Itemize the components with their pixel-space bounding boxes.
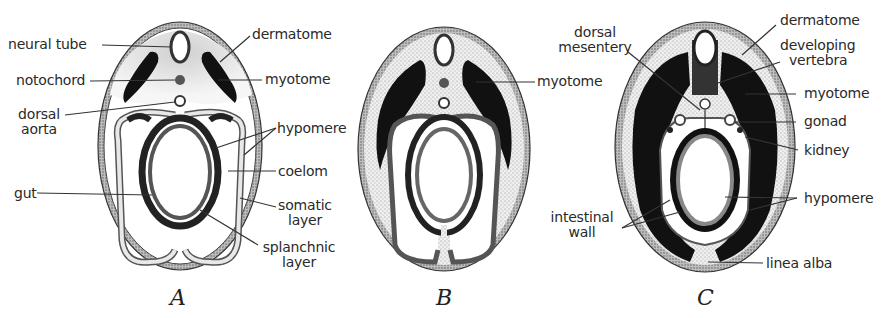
label-coelom: coelom: [278, 164, 328, 179]
label-intestinal-wall: intestinal wall: [543, 210, 621, 240]
label-linea-alba: linea alba: [766, 256, 832, 271]
label-myotome-a: myotome: [265, 72, 330, 87]
neural-tube: [694, 31, 716, 65]
label-dorsal-mesentery: dorsal mesentery: [555, 25, 635, 55]
label-neural-tube: neural tube: [8, 37, 87, 52]
label-myotome-c: myotome: [804, 86, 869, 101]
label-dorsal-mesentery-line1: dorsal: [555, 25, 635, 40]
label-myotome-b: myotome: [537, 74, 602, 89]
notochord: [175, 75, 185, 85]
label-gonad: gonad: [804, 114, 847, 129]
panel-c-diagram: [615, 22, 795, 272]
dorsal-aorta: [439, 98, 449, 108]
label-dorsal-aorta-line2: aorta: [14, 122, 64, 137]
label-developing-vertebra-line1: developing: [780, 38, 860, 53]
gut: [417, 129, 471, 221]
label-dermatome-c: dermatome: [780, 13, 860, 28]
gonad: [675, 115, 685, 125]
label-gut: gut: [14, 186, 37, 201]
notochord: [439, 78, 449, 88]
dorsal-aorta: [700, 99, 710, 109]
label-somatic-line2: layer: [274, 213, 336, 228]
gonad: [725, 115, 735, 125]
embryo-cross-section-figure: [0, 0, 889, 318]
kidney: [667, 127, 673, 133]
label-kidney: kidney: [804, 143, 849, 158]
label-splanchnic-layer: splanchnic layer: [258, 240, 340, 270]
label-dorsal-aorta: dorsal aorta: [14, 107, 64, 137]
label-somatic-layer: somatic layer: [274, 198, 336, 228]
label-dermatome-a: dermatome: [252, 27, 332, 42]
label-dorsal-aorta-line1: dorsal: [14, 107, 64, 122]
panel-b-diagram: [358, 27, 530, 271]
label-somatic-line1: somatic: [274, 198, 336, 213]
panel-letter-a: A: [170, 285, 186, 310]
label-splanchnic-line2: layer: [258, 255, 340, 270]
label-hypomere-a: hypomere: [277, 121, 346, 136]
label-dorsal-mesentery-line2: mesentery: [555, 40, 635, 55]
neural-tube: [435, 35, 453, 65]
label-developing-vertebra: developing vertebra: [780, 38, 860, 68]
label-developing-vertebra-line2: vertebra: [780, 53, 860, 68]
panel-letter-b: B: [436, 285, 452, 310]
label-splanchnic-line1: splanchnic: [258, 240, 340, 255]
gut: [150, 126, 210, 218]
label-intestinal-wall-line1: intestinal: [543, 210, 621, 225]
label-intestinal-wall-line2: wall: [543, 225, 621, 240]
intestinal-wall: [678, 136, 732, 224]
kidney: [737, 127, 743, 133]
neural-tube: [171, 32, 189, 62]
label-notochord: notochord: [16, 73, 85, 88]
label-hypomere-c: hypomere: [804, 191, 873, 206]
panel-letter-c: C: [697, 285, 714, 310]
dorsal-aorta: [175, 96, 185, 106]
